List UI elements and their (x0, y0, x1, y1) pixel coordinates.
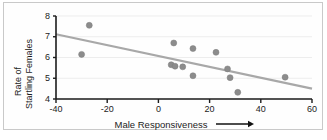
y-axis-label-line1: Rate of (14, 67, 23, 96)
scatter-chart-figure: Rate of Startling Females Male Responsiv… (0, 0, 327, 140)
trendline-segment (56, 34, 312, 88)
data-point (213, 49, 219, 55)
data-point (235, 89, 241, 95)
gridlines-group (56, 16, 312, 99)
y-axis-label: Rate of Startling Females (2, 8, 36, 104)
data-point (79, 51, 85, 57)
data-point (225, 66, 231, 72)
y-tick-label: 8 (36, 12, 50, 21)
trendline (56, 34, 312, 88)
data-point (86, 22, 92, 28)
y-tick-label: 7 (36, 32, 50, 41)
data-point (180, 64, 186, 70)
data-point (190, 46, 196, 52)
x-tick-label: -20 (95, 105, 119, 114)
y-tick-label: 6 (36, 53, 50, 62)
data-points-group (79, 22, 289, 95)
data-point (282, 74, 288, 80)
x-axis-label: Male Responsiveness (56, 119, 266, 130)
axis-ticks (53, 16, 312, 103)
y-tick-label: 4 (36, 95, 50, 104)
x-tick-label: 40 (249, 105, 273, 114)
data-point (172, 63, 178, 69)
y-tick-label: 5 (36, 74, 50, 83)
data-point (190, 73, 196, 79)
x-tick-label: -40 (44, 105, 68, 114)
data-point (227, 75, 233, 81)
x-tick-label: 20 (198, 105, 222, 114)
x-tick-label: 60 (300, 105, 324, 114)
data-point (171, 40, 177, 46)
x-tick-label: 0 (146, 105, 170, 114)
y-axis-label-line2: Startling Females (25, 39, 34, 109)
